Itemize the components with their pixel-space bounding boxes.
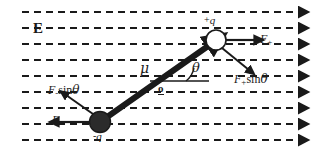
force-plus-sin-function: sin <box>246 72 260 86</box>
force-plus-label: F+ <box>260 33 272 47</box>
force-minus-sin-theta-label: F-sinθ <box>48 84 80 98</box>
dipole-moment-vector <box>100 44 211 122</box>
electric-field-label: E <box>33 21 43 36</box>
positive-charge-marker <box>206 30 226 50</box>
negative-charge-symbol: q <box>96 130 102 142</box>
force-plus-sin-theta-label: F+sinθ <box>234 73 268 87</box>
positive-charge-symbol: q <box>210 14 216 26</box>
origin-label: o <box>158 83 164 95</box>
force-minus-sin-theta-symbol: θ <box>72 83 79 97</box>
figure-canvas <box>0 0 319 155</box>
dipole-moment-label: μ <box>140 61 149 77</box>
theta-angle-label: θ <box>192 61 200 74</box>
positive-charge-label: +q <box>204 15 215 26</box>
dipole-field-figure: E +q -q μ θ o F+ F+sinθ F- F-sinθ <box>0 0 319 155</box>
force-plus-subscript: + <box>267 37 272 47</box>
force-plus-sin-theta-symbol: θ <box>260 72 267 86</box>
force-minus-label: F- <box>52 114 62 128</box>
negative-charge-label: -q <box>93 131 102 142</box>
force-minus-sin-function: sin <box>58 83 72 97</box>
force-minus-subscript: - <box>59 118 62 128</box>
